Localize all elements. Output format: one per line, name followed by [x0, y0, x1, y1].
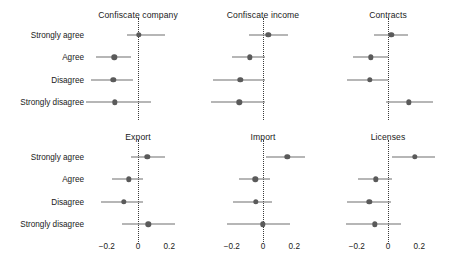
point-estimate-marker — [285, 154, 290, 159]
point-estimate-marker — [111, 77, 116, 82]
x-axis-tick-label: −0.2 — [224, 242, 240, 251]
zero-reference-line — [263, 18, 264, 120]
point-estimate-marker — [145, 221, 150, 226]
confidence-interval-bar — [233, 201, 272, 202]
panel-confiscate-income: Confiscate income — [213, 26, 313, 112]
point-estimate-marker — [136, 32, 141, 37]
point-estimate-marker — [112, 99, 117, 104]
panel-licenses: Licenses−0.200.2 — [338, 148, 438, 234]
x-axis: −0.200.2 — [338, 242, 438, 256]
point-estimate-marker — [388, 32, 393, 37]
point-estimate-marker — [247, 55, 252, 60]
point-estimate-marker — [368, 55, 373, 60]
panel-import: Import−0.200.2 — [213, 148, 313, 234]
point-estimate-marker — [237, 99, 242, 104]
x-axis-tick-label: −0.2 — [99, 242, 115, 251]
zero-reference-line — [388, 140, 389, 242]
x-axis: −0.200.2 — [88, 242, 188, 256]
point-estimate-marker — [412, 154, 417, 159]
panel-export: ExportStrongly agreeAgreeDisagreeStrongl… — [88, 148, 188, 234]
y-axis-label: Disagree — [51, 197, 84, 206]
point-estimate-marker — [126, 177, 131, 182]
x-axis-tick-label: 0 — [261, 242, 266, 251]
point-estimate-marker — [112, 55, 117, 60]
confidence-interval-bar — [127, 35, 165, 36]
point-estimate-marker — [253, 199, 258, 204]
x-axis-tick-label: 0 — [386, 242, 391, 251]
y-axis-label: Strongly disagree — [20, 220, 84, 229]
confidence-interval-bar — [227, 224, 290, 225]
x-axis-tick-label: 0.2 — [289, 242, 300, 251]
x-axis-tick-label: −0.2 — [349, 242, 365, 251]
point-estimate-marker — [238, 77, 243, 82]
x-axis-tick-label: 0.2 — [164, 242, 175, 251]
point-estimate-marker — [260, 221, 265, 226]
zero-reference-line — [138, 140, 139, 242]
y-axis-label: Agree — [62, 53, 84, 62]
y-axis-label: Agree — [62, 175, 84, 184]
point-estimate-marker — [266, 32, 271, 37]
y-axis-category-labels: Strongly agreeAgreeDisagreeStrongly disa… — [4, 26, 84, 112]
point-estimate-marker — [145, 154, 150, 159]
x-axis: −0.200.2 — [213, 242, 313, 256]
y-axis-category-labels: Strongly agreeAgreeDisagreeStrongly disa… — [4, 148, 84, 234]
x-axis-tick-label: 0.2 — [414, 242, 425, 251]
y-axis-label: Disagree — [51, 75, 84, 84]
point-estimate-marker — [373, 177, 378, 182]
zero-reference-line — [263, 140, 264, 242]
point-estimate-marker — [372, 221, 377, 226]
point-estimate-marker — [252, 177, 257, 182]
y-axis-label: Strongly agree — [31, 31, 84, 40]
y-axis-label: Strongly disagree — [20, 98, 84, 107]
point-estimate-marker — [406, 99, 411, 104]
point-estimate-marker — [121, 199, 126, 204]
point-estimate-marker — [367, 199, 372, 204]
y-axis-label: Strongly agree — [31, 153, 84, 162]
panel-contracts: Contracts — [338, 26, 438, 112]
x-axis-tick-label: 0 — [136, 242, 141, 251]
coefficient-plot-figure: Confiscate companyStrongly agreeAgreeDis… — [0, 0, 460, 264]
panel-confiscate-company: Confiscate companyStrongly agreeAgreeDis… — [88, 26, 188, 112]
point-estimate-marker — [367, 77, 372, 82]
confidence-interval-bar — [86, 102, 150, 103]
